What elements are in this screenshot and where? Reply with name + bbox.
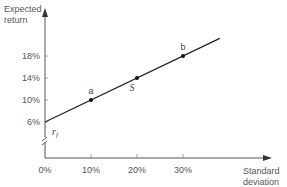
point-a	[89, 98, 93, 102]
x-axis-title-line2: deviation	[243, 177, 279, 187]
y-tick-label: 6%	[27, 117, 40, 127]
point-s	[135, 76, 139, 80]
axes	[42, 8, 272, 161]
point-b	[181, 54, 185, 58]
x-axis-title-line1: Standard	[243, 166, 280, 176]
point-label-s: S	[130, 82, 135, 93]
y-axis-title-line1: Expected	[4, 4, 42, 14]
x-axis-arrowhead	[263, 155, 272, 161]
y-tick-label: 10%	[22, 95, 40, 105]
point-label-a: a	[88, 86, 93, 96]
risk-free-label: rf	[52, 126, 59, 139]
points	[89, 54, 185, 102]
chart: 6%10%14%18%0%10%20%30%ExpectedreturnStan…	[0, 0, 287, 187]
y-axis-title-line2: return	[4, 15, 28, 25]
x-tick-label: 0%	[38, 165, 51, 175]
point-label-b: b	[180, 42, 185, 52]
x-tick-label: 30%	[174, 165, 192, 175]
y-tick-label: 14%	[22, 73, 40, 83]
ticks	[45, 56, 183, 158]
x-tick-label: 10%	[82, 165, 100, 175]
y-tick-label: 18%	[22, 51, 40, 61]
x-tick-label: 20%	[128, 165, 146, 175]
capital-market-line	[45, 38, 220, 122]
y-axis-arrowhead	[42, 8, 48, 17]
risk-free-label-sub: f	[56, 131, 59, 139]
series	[45, 38, 220, 122]
